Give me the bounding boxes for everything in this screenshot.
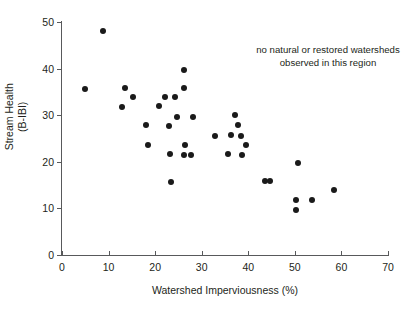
x-tick-mark [202, 251, 203, 256]
x-axis-line [61, 255, 389, 256]
data-point [239, 152, 245, 158]
y-axis-label-line2: (B-IBI) [16, 102, 28, 132]
data-point [100, 28, 106, 34]
data-point [119, 104, 125, 110]
scatter-chart-figure: 01020304050 010203040506070 Stream Healt… [0, 0, 408, 315]
data-point [181, 85, 187, 91]
y-axis-label: Stream Health (B-IBI) [3, 52, 29, 182]
x-tick-label: 70 [382, 262, 394, 273]
x-tick-mark [109, 251, 110, 256]
x-axis-label: Watershed Imperviousness (%) [62, 284, 388, 296]
x-tick-label: 30 [196, 262, 208, 273]
y-axis-label-line1: Stream Health [3, 83, 15, 150]
x-tick-mark [248, 251, 249, 256]
data-point [295, 160, 301, 166]
y-tick-label: 50 [42, 17, 54, 28]
x-tick-mark [341, 251, 342, 256]
x-tick-label: 60 [336, 262, 348, 273]
data-point [212, 133, 218, 139]
data-point [162, 94, 168, 100]
y-tick-label: 40 [42, 63, 54, 74]
data-point [188, 152, 194, 158]
data-point [293, 197, 299, 203]
y-tick-mark [57, 69, 62, 70]
data-point [168, 179, 174, 185]
y-tick-mark [57, 22, 62, 23]
y-tick-mark [57, 115, 62, 116]
data-point [174, 114, 180, 120]
y-tick-label: 30 [42, 110, 54, 121]
x-tick-mark [388, 251, 389, 256]
data-point [122, 85, 128, 91]
data-point [267, 178, 273, 184]
data-point [145, 142, 151, 148]
y-tick-mark [57, 208, 62, 209]
y-tick-label: 0 [48, 250, 54, 261]
data-point [228, 132, 234, 138]
y-tick-label: 20 [42, 157, 54, 168]
data-point [156, 103, 162, 109]
data-point [181, 67, 187, 73]
x-tick-mark [155, 251, 156, 256]
data-point [182, 142, 188, 148]
data-point [331, 187, 337, 193]
data-point [243, 142, 249, 148]
data-point [232, 112, 238, 118]
x-tick-mark [295, 251, 296, 256]
data-point [181, 152, 187, 158]
x-tick-label: 10 [103, 262, 115, 273]
x-tick-label: 0 [59, 262, 65, 273]
x-tick-label: 40 [242, 262, 254, 273]
data-point [225, 151, 231, 157]
data-point [293, 207, 299, 213]
data-point [143, 122, 149, 128]
data-point [309, 197, 315, 203]
x-tick-mark [62, 251, 63, 256]
x-tick-label: 20 [149, 262, 161, 273]
data-point [166, 123, 172, 129]
x-tick-label: 50 [289, 262, 301, 273]
y-tick-mark [57, 162, 62, 163]
data-point [82, 86, 88, 92]
data-point [235, 122, 241, 128]
data-point [190, 114, 196, 120]
data-point [130, 94, 136, 100]
data-point [238, 133, 244, 139]
data-point [172, 94, 178, 100]
data-point [167, 151, 173, 157]
y-tick-label: 10 [42, 203, 54, 214]
chart-annotation: no natural or restored watersheds observ… [256, 44, 400, 70]
